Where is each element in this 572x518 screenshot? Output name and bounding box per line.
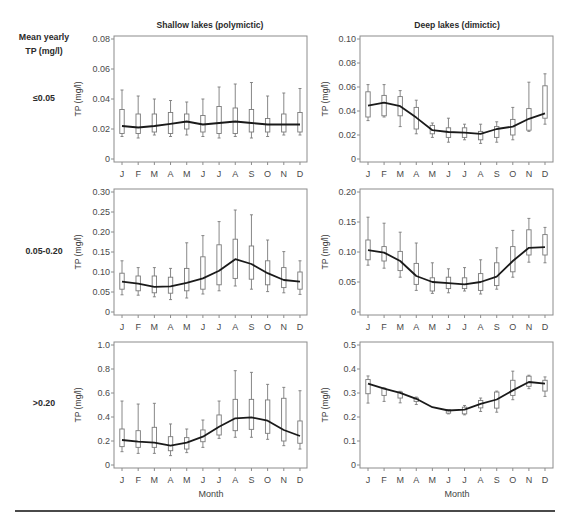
y-tick-label: 0.15 xyxy=(338,217,356,227)
y-tick-label: 0.4 xyxy=(343,364,356,374)
figure: 00.020.040.060.08TP (mg/l)JFMAMJJASOND00… xyxy=(0,0,572,518)
box-J xyxy=(120,401,124,452)
box-iqr xyxy=(136,114,140,134)
box-J xyxy=(446,118,450,142)
x-tick-label: S xyxy=(494,169,500,179)
box-M xyxy=(185,243,189,298)
box-D xyxy=(298,391,302,449)
x-tick-label: F xyxy=(381,475,387,485)
plot-canvas: 00.020.040.060.08TP (mg/l)JFMAMJJASOND00… xyxy=(0,0,572,518)
x-axis-label-deep: Month xyxy=(444,490,469,499)
x-tick-label: N xyxy=(526,475,533,485)
box-F xyxy=(382,223,386,268)
box-iqr xyxy=(185,268,189,290)
box-J xyxy=(201,420,205,447)
box-J xyxy=(120,261,124,295)
x-tick-label: M xyxy=(396,169,404,179)
box-N xyxy=(527,218,531,262)
x-axis-label-shallow: Month xyxy=(198,490,223,499)
y-tick-label: 1.0 xyxy=(97,340,110,350)
box-iqr xyxy=(282,268,286,288)
x-tick-label: J xyxy=(462,322,467,332)
panel-deep-row-1: 00.020.040.060.080.10TP (mg/l)JFMAMJJASO… xyxy=(320,34,553,179)
box-M xyxy=(398,91,402,127)
row-label-mid: 0.05-0.20 xyxy=(25,247,62,256)
x-tick-label: S xyxy=(248,322,254,332)
box-A xyxy=(478,260,482,294)
x-tick-label: D xyxy=(542,322,549,332)
box-A xyxy=(233,371,237,438)
y-tick-label: 0.30 xyxy=(92,187,110,197)
row-header-line-2: TP (mg/l) xyxy=(25,47,62,56)
box-iqr xyxy=(217,245,221,285)
plot-frame xyxy=(114,342,307,468)
x-tick-label: J xyxy=(462,169,467,179)
box-O xyxy=(511,107,515,139)
y-tick-label: 0 xyxy=(351,307,356,317)
box-D xyxy=(543,227,547,262)
box-iqr xyxy=(366,380,370,394)
box-iqr xyxy=(527,230,531,255)
x-tick-label: S xyxy=(494,322,500,332)
y-tick-label: 0.06 xyxy=(92,64,110,74)
x-tick-label: J xyxy=(366,322,371,332)
x-tick-label: A xyxy=(168,322,174,332)
x-tick-label: N xyxy=(281,322,288,332)
box-J xyxy=(366,85,370,121)
box-iqr xyxy=(168,437,172,451)
y-tick-label: 0.6 xyxy=(97,388,110,398)
x-tick-label: M xyxy=(183,169,191,179)
box-S xyxy=(249,215,253,289)
plot-frame xyxy=(360,342,553,468)
box-F xyxy=(136,96,140,138)
x-tick-label: J xyxy=(462,475,467,485)
column-title-deep: Deep lakes (dimictic) xyxy=(414,21,500,30)
x-tick-label: J xyxy=(201,169,206,179)
y-tick-label: 0.25 xyxy=(92,207,110,217)
x-tick-label: F xyxy=(381,322,387,332)
box-iqr xyxy=(249,399,253,429)
box-iqr xyxy=(233,399,237,430)
box-N xyxy=(282,387,286,445)
box-O xyxy=(265,384,269,439)
plot-frame xyxy=(114,36,307,162)
x-tick-label: M xyxy=(396,322,404,332)
x-tick-label: M xyxy=(429,322,437,332)
trend-line xyxy=(368,247,545,284)
y-axis-label: TP (mg/l) xyxy=(73,387,83,422)
row-header-line-1: Mean yearly xyxy=(19,33,69,42)
x-tick-label: A xyxy=(168,475,174,485)
box-F xyxy=(136,404,140,453)
plot-frame xyxy=(114,189,307,315)
x-tick-label: M xyxy=(151,475,159,485)
box-D xyxy=(298,89,302,136)
box-M xyxy=(430,263,434,294)
y-tick-label: 0.2 xyxy=(343,412,356,422)
box-J xyxy=(366,376,370,403)
y-tick-label: 0.06 xyxy=(338,82,356,92)
y-tick-label: 0 xyxy=(105,307,110,317)
row-label-low: ≤0.05 xyxy=(33,94,55,103)
x-tick-label: M xyxy=(183,475,191,485)
x-tick-label: A xyxy=(478,475,484,485)
box-M xyxy=(152,268,156,297)
y-tick-label: 0.04 xyxy=(92,94,110,104)
box-A xyxy=(233,84,237,137)
box-O xyxy=(265,240,269,292)
x-tick-label: J xyxy=(120,475,125,485)
y-tick-label: 0.3 xyxy=(343,388,356,398)
x-tick-label: F xyxy=(135,475,141,485)
x-tick-label: O xyxy=(264,322,271,332)
y-axis-label: TP (mg/l) xyxy=(320,81,330,116)
x-tick-label: D xyxy=(542,475,549,485)
x-tick-label: A xyxy=(478,169,484,179)
y-tick-label: 0.2 xyxy=(97,436,110,446)
y-tick-label: 0 xyxy=(351,460,356,470)
box-S xyxy=(495,248,499,289)
x-tick-label: J xyxy=(217,169,222,179)
x-tick-label: J xyxy=(201,322,206,332)
x-tick-label: J xyxy=(446,322,451,332)
box-M xyxy=(185,429,189,453)
y-tick-label: 0.10 xyxy=(92,267,110,277)
box-iqr xyxy=(298,113,302,133)
